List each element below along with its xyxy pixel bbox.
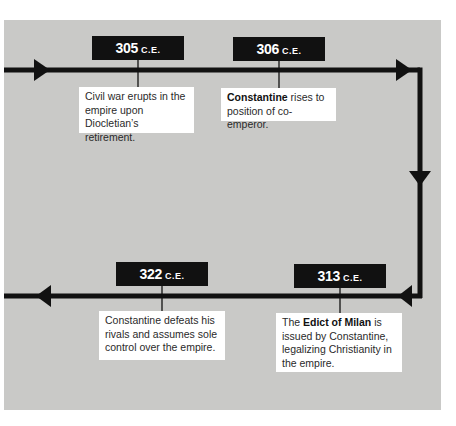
event-text-bold: Edict of Milan <box>303 316 371 328</box>
arrow-left-icon <box>36 285 51 307</box>
arrow-right-icon <box>34 59 50 81</box>
year: 305 <box>116 40 138 56</box>
event-text: Constantine defeats his rivals and assum… <box>105 314 217 353</box>
date-label: 305C.E. <box>92 36 184 60</box>
date-label: 322C.E. <box>116 262 208 286</box>
era: C.E. <box>343 273 363 283</box>
arrow-down-icon <box>409 171 431 186</box>
arrow-right-icon <box>396 59 412 81</box>
event-description: Constantine defeats his rivals and assum… <box>99 311 225 360</box>
event-description: The Edict of Milan is issued by Constant… <box>276 313 402 372</box>
event-description: Civil war erupts in the empire upon Dioc… <box>79 87 194 133</box>
year: 313 <box>318 268 340 284</box>
event-description: Constantine rises to position of co-empe… <box>221 88 336 121</box>
year: 306 <box>257 41 279 57</box>
era: C.E. <box>141 45 161 55</box>
event-text-bold: Constantine <box>227 91 288 103</box>
date-label: 306C.E. <box>233 37 325 61</box>
era: C.E. <box>282 46 302 56</box>
era: C.E. <box>165 271 185 281</box>
event-text: The <box>282 316 303 328</box>
arrow-left-icon <box>398 285 412 307</box>
date-label: 313C.E. <box>294 264 386 288</box>
year: 322 <box>140 266 162 282</box>
